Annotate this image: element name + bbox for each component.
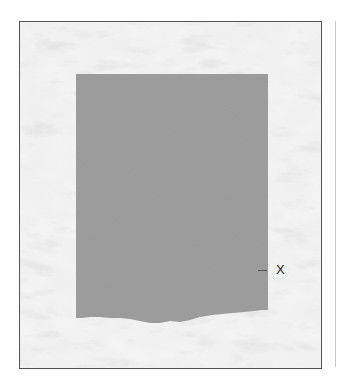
label-leader-line [258,270,267,271]
label-x: X [276,262,285,278]
specimen-shape [76,74,268,324]
specimen-block [76,74,268,324]
figure-frame: X [19,21,322,369]
right-edge-rule [335,21,336,367]
